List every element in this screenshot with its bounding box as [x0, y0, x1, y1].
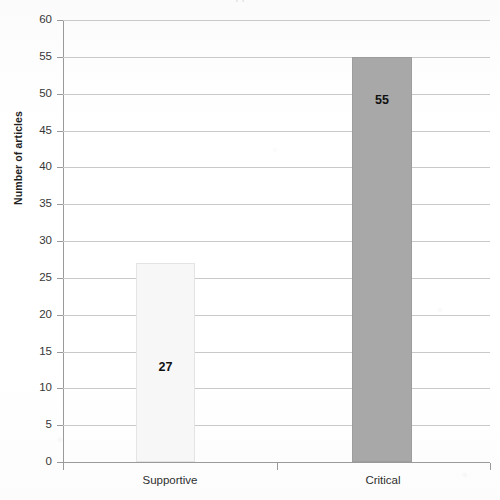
y-axis-tick-label: 30 — [14, 235, 52, 247]
y-axis-title: Number of articles — [12, 88, 24, 228]
y-axis-tick-label: 15 — [14, 346, 52, 358]
gridline — [63, 315, 490, 316]
gridline — [63, 352, 490, 353]
x-axis-category-label: Supportive — [90, 474, 250, 486]
gridline — [63, 94, 490, 95]
x-axis-tick — [490, 463, 491, 470]
gridline — [63, 462, 490, 463]
plot-area: 2755 — [63, 20, 490, 462]
y-axis-tick-label: 0 — [14, 456, 52, 468]
gridline — [63, 20, 490, 21]
bar-value-label: 27 — [136, 360, 195, 374]
gridline — [63, 425, 490, 426]
x-axis-tick — [277, 463, 278, 470]
chart-title-text: cropped title — [220, 0, 280, 2]
bar-supportive[interactable]: 27 — [136, 263, 195, 462]
gridline — [63, 204, 490, 205]
y-axis-tick-label: 60 — [14, 14, 52, 26]
gridline — [63, 131, 490, 132]
gridline — [63, 388, 490, 389]
x-axis-tick — [63, 463, 64, 470]
chart-title-fragment: cropped title — [0, 0, 500, 8]
gridline — [63, 167, 490, 168]
y-axis-tick-label: 5 — [14, 419, 52, 431]
bar-critical[interactable]: 55 — [352, 57, 412, 462]
y-axis-tick-label: 20 — [14, 309, 52, 321]
bar-chart-figure: cropped title 2755 605550454035302520151… — [0, 0, 500, 500]
y-axis-tick-label: 10 — [14, 382, 52, 394]
y-axis-tick-label: 25 — [14, 272, 52, 284]
gridline — [63, 241, 490, 242]
x-axis-category-label: Critical — [303, 474, 463, 486]
y-axis-tick-label: 55 — [14, 51, 52, 63]
bar-value-label: 55 — [352, 93, 412, 107]
gridline — [63, 278, 490, 279]
gridline — [63, 57, 490, 58]
